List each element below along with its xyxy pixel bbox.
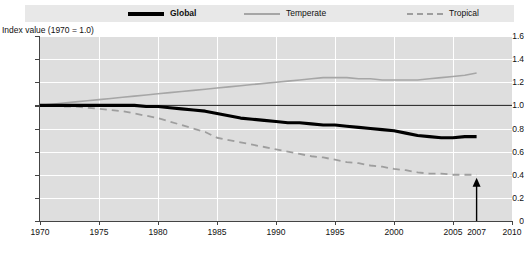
series-lines bbox=[40, 36, 512, 221]
series-line-tropical bbox=[40, 105, 477, 174]
y-tick-mark bbox=[35, 129, 39, 130]
x-tick-label: 2005 bbox=[444, 227, 463, 237]
y-tick-mark bbox=[35, 152, 39, 153]
x-tick-mark bbox=[99, 221, 100, 225]
x-tick-label: 1980 bbox=[149, 227, 168, 237]
x-tick-mark bbox=[276, 221, 277, 225]
y-tick-mark bbox=[35, 198, 39, 199]
x-tick-mark bbox=[40, 221, 41, 225]
x-tick-mark bbox=[394, 221, 395, 225]
series-line-temperate bbox=[40, 73, 477, 105]
x-tick-label: 1970 bbox=[31, 227, 50, 237]
y-tick-mark bbox=[35, 59, 39, 60]
x-tick-label: 1990 bbox=[267, 227, 286, 237]
footnote-sliver bbox=[0, 250, 524, 258]
y-tick-mark bbox=[35, 82, 39, 83]
x-tick-label: 1975 bbox=[90, 227, 109, 237]
up-arrow-icon bbox=[473, 178, 481, 187]
x-tick-label: 2010 bbox=[503, 227, 522, 237]
plot-area: 00.20.40.60.81.01.21.41.6 19701975198019… bbox=[0, 0, 524, 258]
x-tick-mark bbox=[335, 221, 336, 225]
x-tick-mark bbox=[512, 221, 513, 225]
x-tick-label: 2000 bbox=[385, 227, 404, 237]
x-tick-mark bbox=[453, 221, 454, 225]
x-tick-mark bbox=[217, 221, 218, 225]
y-tick-mark bbox=[35, 221, 39, 222]
y-tick-mark bbox=[35, 105, 39, 106]
x-tick-label-annotation: 2007 bbox=[467, 227, 486, 237]
y-tick-mark bbox=[35, 175, 39, 176]
x-tick-label: 1985 bbox=[208, 227, 227, 237]
y-tick-mark bbox=[35, 36, 39, 37]
chart-root: Global Temperate Tropical Index value (1… bbox=[0, 0, 524, 258]
x-tick-label: 1995 bbox=[326, 227, 345, 237]
x-tick-mark bbox=[158, 221, 159, 225]
